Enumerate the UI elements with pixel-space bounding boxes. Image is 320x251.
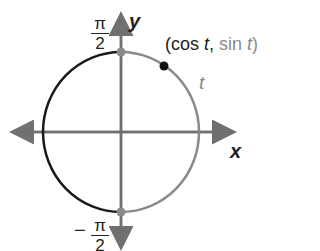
bottom-minus-sign: − [74, 219, 86, 242]
top-marker [117, 48, 126, 57]
point-label: (cos t, sin t) [165, 34, 258, 55]
y-axis-label: y [129, 10, 140, 33]
arc-t-label: t [199, 72, 204, 94]
bottom-pi-over-2: π 2 [91, 217, 109, 251]
bottom-marker [117, 208, 126, 217]
top-pi-over-2: π 2 [91, 15, 109, 52]
x-axis-label: x [230, 140, 241, 163]
point-cos-sin [160, 62, 169, 71]
